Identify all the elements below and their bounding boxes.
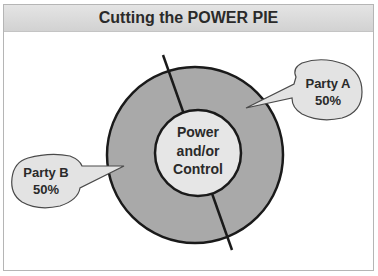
party-b-name: Party B: [23, 165, 69, 180]
power-pie-diagram: Power and/or Control Party A 50% Party B…: [0, 0, 378, 276]
party-a-name: Party A: [305, 76, 351, 91]
party-b-share: 50%: [33, 182, 59, 197]
center-label-line-2: and/or: [177, 143, 220, 159]
center-label-line-3: Control: [173, 161, 223, 177]
party-a-share: 50%: [315, 93, 341, 108]
center-label-line-1: Power: [177, 124, 220, 140]
